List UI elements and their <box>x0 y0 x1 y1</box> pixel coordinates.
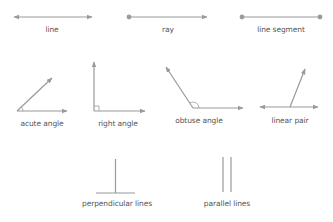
acute-angle-figure <box>17 78 67 111</box>
label-right-angle: right angle <box>98 119 138 128</box>
label-obtuse-angle: obtuse angle <box>175 116 223 125</box>
line-segment-figure <box>240 15 322 19</box>
label-ray: ray <box>162 25 174 34</box>
label-parallel-lines: parallel lines <box>204 199 250 208</box>
label-line: line <box>45 25 58 34</box>
obtuse-angle-figure <box>166 67 243 108</box>
label-linear-pair: linear pair <box>271 116 308 125</box>
label-line-segment: line segment <box>257 25 305 34</box>
perpendicular-lines-figure <box>96 159 135 193</box>
right-angle-figure <box>94 62 145 111</box>
ray-figure <box>127 15 207 19</box>
parallel-lines-figure <box>223 157 231 192</box>
linear-pair-figure <box>260 69 318 107</box>
label-acute-angle: acute angle <box>20 119 63 128</box>
label-perpendicular-lines: perpendicular lines <box>82 199 152 208</box>
